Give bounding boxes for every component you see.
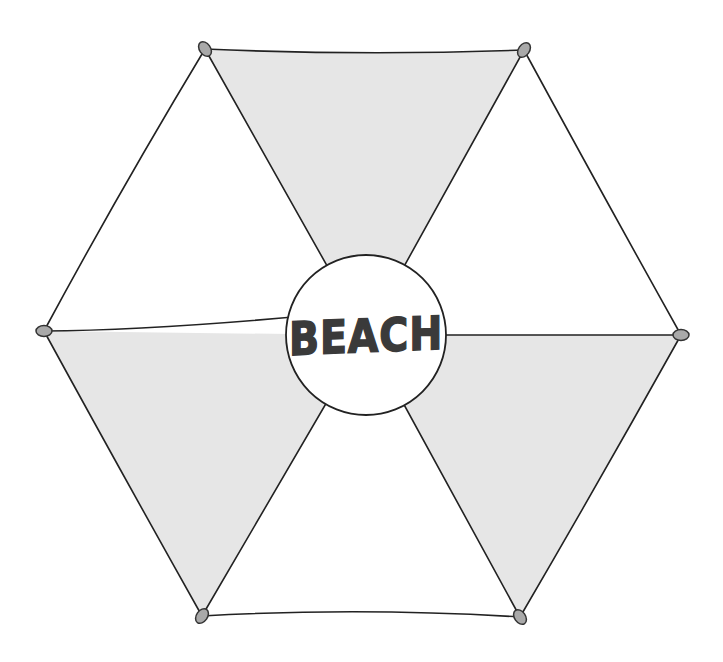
tip-cap-bottom-left-icon (193, 606, 211, 625)
center-label: BEACH (297, 297, 435, 375)
tip-cap-right-icon (673, 330, 689, 341)
beach-umbrella-illustration: BEACH (0, 0, 723, 662)
tip-cap-left-icon (36, 326, 52, 337)
tip-cap-bottom-right-icon (511, 607, 529, 626)
